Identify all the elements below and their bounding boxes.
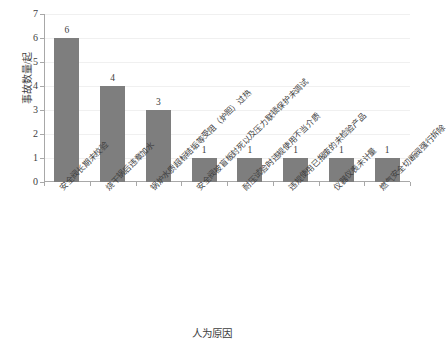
y-axis-title: 事故数量/起 [22,38,34,118]
bar-value-label: 1 [293,145,298,155]
y-axis-tick-label: 2 [33,129,38,139]
bar-value-label: 1 [385,145,390,155]
bar-value-label: 1 [202,145,207,155]
bar-value-label: 6 [65,25,70,35]
bar-value-label: 1 [339,145,344,155]
y-axis-tick-label: 7 [33,9,38,19]
bar-value-label: 3 [156,97,161,107]
category-labels: 安全阀长期未校验烧干锅后违章加水锅炉水质超标结垢等受阻（炉胆）过热安全阀被盲板封… [0,182,424,317]
y-axis-tick-label: 1 [33,153,38,163]
bar-value-label: 1 [248,145,253,155]
bar[interactable] [54,38,79,182]
x-axis-title: 人为原因 [0,327,424,340]
bar-value-label: 4 [110,73,115,83]
